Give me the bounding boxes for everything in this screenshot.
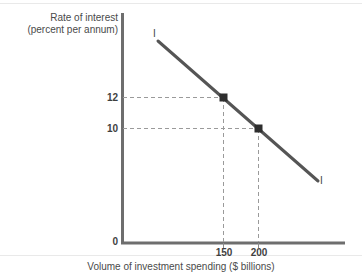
- x-tick-label-200: 200: [242, 247, 276, 259]
- investment-demand-curve: [158, 41, 318, 181]
- y-tick-label-12: 12: [96, 92, 118, 104]
- y-axis-label-line2: (percent per annum): [0, 24, 118, 36]
- investment-demand-chart: Rate of interest (percent per annum) 12 …: [0, 0, 362, 278]
- x-tick-label-150: 150: [207, 247, 241, 259]
- y-axis-label: Rate of interest (percent per annum): [0, 12, 118, 36]
- x-axis-label: Volume of investment spending ($ billion…: [0, 261, 362, 273]
- y-axis-label-line1: Rate of interest: [0, 12, 118, 24]
- origin-label: 0: [104, 236, 118, 248]
- curve-label-start: I: [153, 28, 156, 40]
- data-point-marker-150-12: [220, 94, 228, 102]
- y-tick-label-10: 10: [96, 123, 118, 135]
- plot-area: [0, 0, 362, 278]
- curve-label-end: I: [320, 175, 323, 187]
- data-point-marker-200-10: [255, 125, 263, 133]
